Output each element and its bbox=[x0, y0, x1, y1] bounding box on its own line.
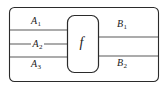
input-wire-a1-label-subscript: 1 bbox=[37, 20, 41, 28]
morphism-label: f bbox=[80, 36, 84, 50]
output-wire-b2-label-subscript: 2 bbox=[123, 62, 127, 70]
diagram-canvas: A1A2A3B1B2 f bbox=[0, 0, 166, 89]
output-wire-b2-label: B2 bbox=[117, 58, 127, 68]
input-wire-a3-label-subscript: 3 bbox=[37, 63, 41, 71]
output-wire-b1-label: B1 bbox=[117, 19, 127, 29]
output-wire-b1-label-subscript: 1 bbox=[123, 23, 127, 31]
input-wire-a3-label: A3 bbox=[31, 59, 41, 69]
input-wire-a2-label-base: A bbox=[33, 38, 39, 49]
input-wire-a2-label-subscript: 2 bbox=[39, 43, 43, 51]
input-wire-a1-label: A1 bbox=[31, 16, 41, 26]
input-wire-a2-label: A2 bbox=[31, 39, 44, 49]
